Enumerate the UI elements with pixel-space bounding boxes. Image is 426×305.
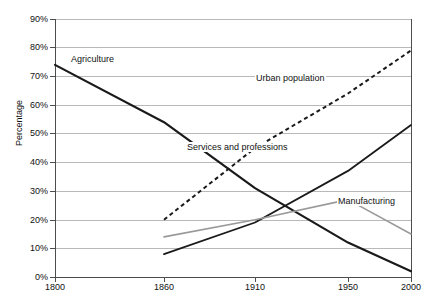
series-label-manufacturing: Manufacturing — [337, 196, 396, 206]
series-label-services-and-professions: Services and professions — [186, 142, 289, 152]
series-layer — [0, 0, 426, 305]
series-label-agriculture: Agriculture — [70, 54, 115, 64]
line-chart: 90% 80% 70% 60% 50% 40% 30% 20% 10% 0% 1… — [0, 0, 426, 305]
series-line-agriculture — [55, 65, 411, 271]
series-label-urban-population: Urban population — [255, 73, 326, 83]
